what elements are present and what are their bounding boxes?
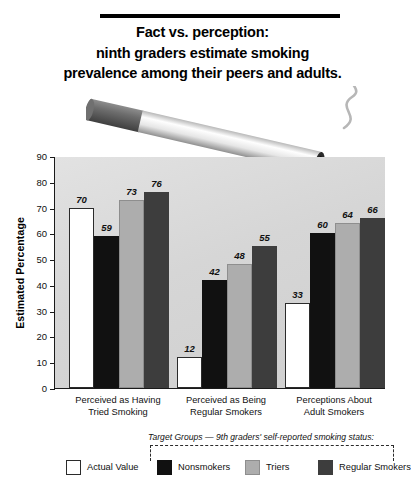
bar-fill [227, 264, 252, 388]
title-line-3: prevalence among their peers and adults. [30, 63, 375, 84]
bar-group: 70597376 [69, 157, 169, 388]
bar-fill [310, 233, 335, 388]
page-title: Fact vs. perception: ninth graders estim… [30, 22, 375, 84]
y-axis-title: Estimated Percentage [14, 157, 30, 389]
title-rule [100, 14, 340, 18]
y-axis-tick [50, 389, 55, 390]
y-axis-tick-label: 20 [21, 331, 47, 342]
bar-fill [360, 218, 385, 388]
y-axis-tick [50, 209, 55, 210]
y-axis-tick-label: 40 [21, 280, 47, 291]
y-axis-tick-label: 60 [21, 228, 47, 239]
y-axis-tick [50, 286, 55, 287]
y-axis-tick-label: 80 [21, 177, 47, 188]
y-axis-tick [50, 363, 55, 364]
bar-fill [252, 246, 277, 388]
legend-label: Nonsmokers [178, 462, 230, 472]
bar-group: 12424855 [177, 157, 277, 388]
bar-value-label: 76 [137, 178, 176, 189]
bar-fill [285, 303, 310, 388]
bar: 55 [252, 246, 277, 388]
bar-fill [69, 208, 94, 388]
y-axis-tick-label: 70 [21, 203, 47, 214]
bar-fill [177, 357, 202, 388]
bar-value-label: 66 [353, 204, 392, 215]
legend-item[interactable]: Actual Value [66, 459, 139, 475]
category-label-line: Perceptions About [269, 395, 399, 407]
bar: 48 [227, 264, 252, 388]
legend-swatch [157, 460, 172, 475]
legend-item[interactable]: Triers [245, 459, 289, 475]
legend-label: Actual Value [87, 462, 139, 472]
y-axis-tick [50, 157, 55, 158]
y-axis-tick-label: 10 [21, 357, 47, 368]
legend-item[interactable]: Nonsmokers [157, 459, 230, 475]
cigarette-illustration [86, 86, 366, 166]
y-axis-tick-label: 50 [21, 254, 47, 265]
bar-fill [144, 192, 169, 388]
y-axis-tick [50, 183, 55, 184]
bar-value-label: 55 [245, 232, 284, 243]
bar: 73 [119, 200, 144, 388]
title-line-2: ninth graders estimate smoking [30, 43, 375, 64]
bar: 66 [360, 218, 385, 388]
y-axis-tick [50, 337, 55, 338]
legend-swatch [318, 460, 333, 475]
legend-item[interactable]: Regular Smokers [318, 459, 411, 475]
bar-fill [119, 200, 144, 388]
legend-label: Regular Smokers [339, 462, 411, 472]
y-axis-tick [50, 312, 55, 313]
y-axis-tick [50, 260, 55, 261]
bar-value-label: 70 [62, 194, 101, 205]
y-axis-tick-label: 0 [21, 383, 47, 394]
bar-group: 33606466 [285, 157, 385, 388]
bar-fill [94, 236, 119, 388]
chart-legend: Target Groups — 9th graders' self-report… [0, 432, 405, 494]
x-axis-category-label: Perceptions AboutAdult Smokers [269, 395, 399, 418]
chart-plot-area: 0102030405060708090705973761242485533606… [54, 157, 385, 389]
legend-swatch [245, 460, 260, 475]
bar: 60 [310, 233, 335, 388]
legend-label: Triers [266, 462, 289, 472]
y-axis-tick-label: 90 [21, 151, 47, 162]
bar: 59 [94, 236, 119, 388]
bar-fill [335, 223, 360, 388]
legend-swatch [66, 460, 81, 475]
title-line-1: Fact vs. perception: [30, 22, 375, 43]
category-label-line: Adult Smokers [269, 407, 399, 419]
bar: 64 [335, 223, 360, 388]
bar-fill [202, 280, 227, 388]
y-axis-tick [50, 234, 55, 235]
bar: 33 [285, 303, 310, 388]
bar: 42 [202, 280, 227, 388]
bar: 76 [144, 192, 169, 388]
y-axis-tick-label: 30 [21, 306, 47, 317]
bar: 70 [69, 208, 94, 388]
legend-caption: Target Groups — 9th graders' self-report… [148, 432, 398, 442]
bar: 12 [177, 357, 202, 388]
